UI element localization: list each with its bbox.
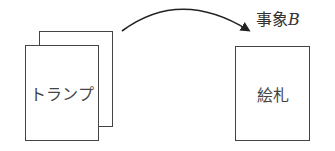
event-variable: B xyxy=(288,10,300,29)
target-card: 絵札 xyxy=(235,46,310,141)
target-label: 絵札 xyxy=(257,82,289,106)
event-label-text: 事象 xyxy=(256,10,288,29)
event-label: 事象B xyxy=(256,6,300,30)
